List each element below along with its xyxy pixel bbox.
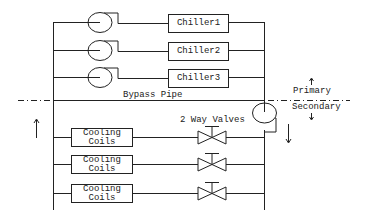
chiller-2-label: Chiller2 <box>168 46 229 56</box>
secondary-label: Secondary <box>292 102 341 112</box>
chiller-row-2 <box>54 41 265 61</box>
arrow-down-icon <box>286 124 291 143</box>
chiller-row-1 <box>54 13 265 33</box>
coil-1-line2: Coils <box>71 137 133 147</box>
primary-arrow-up-icon <box>310 78 314 85</box>
two-way-valve-icon <box>198 153 226 171</box>
coil-3-line2: Coils <box>71 193 133 203</box>
chiller-1-label: Chiller1 <box>168 18 229 28</box>
arrow-up-icon <box>34 119 39 138</box>
secondary-arrow-down-icon <box>310 113 314 120</box>
primary-label: Primary <box>293 86 331 96</box>
bypass-pipe-label: Bypass Pipe <box>123 90 182 100</box>
two-way-valve-icon <box>198 126 226 144</box>
coil-2-line2: Coils <box>71 164 133 174</box>
two-way-valves-label: 2 Way Valves <box>180 115 245 125</box>
chiller-row-3 <box>54 68 265 88</box>
chiller-3-label: Chiller3 <box>168 73 229 83</box>
two-way-valve-icon <box>198 182 226 200</box>
